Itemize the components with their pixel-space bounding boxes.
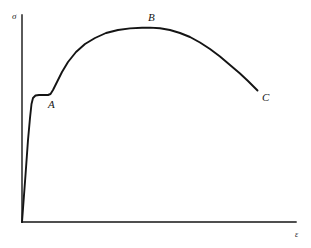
plot-canvas	[0, 0, 311, 248]
x-axis-label-epsilon: ε	[295, 231, 298, 239]
point-label-b: B	[148, 12, 155, 23]
y-axis-label-sigma: σ	[12, 12, 16, 21]
figure-background	[0, 0, 311, 248]
stress-strain-figure: σ ε A B C	[0, 0, 311, 248]
point-label-a: A	[48, 99, 55, 110]
point-label-c: C	[262, 92, 269, 103]
